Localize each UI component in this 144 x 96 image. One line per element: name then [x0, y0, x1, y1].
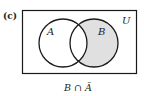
- set-a-label: A: [46, 26, 54, 37]
- set-b-label: B: [97, 26, 105, 37]
- caption: B ∩ Ā: [63, 82, 92, 93]
- universe-label: U: [122, 15, 131, 26]
- part-label: (c): [3, 11, 17, 21]
- venn-diagram-figure: (c) U A B B ∩ Ā: [0, 0, 144, 96]
